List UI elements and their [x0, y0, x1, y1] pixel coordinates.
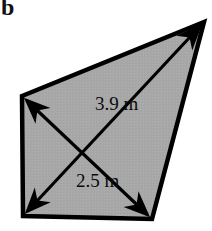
figure-container: b 3.9 m 2.5 m	[0, 0, 212, 231]
part-label-b: b	[1, 0, 14, 19]
quadrilateral-diagram	[0, 0, 212, 231]
dimension-label-3-9-m: 3.9 m	[95, 94, 138, 113]
dimension-label-2-5-m: 2.5 m	[76, 171, 119, 190]
